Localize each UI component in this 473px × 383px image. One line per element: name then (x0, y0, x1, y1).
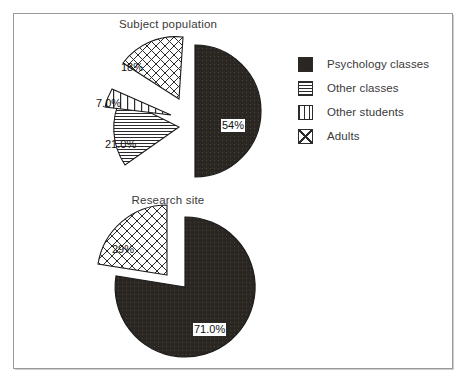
pie-label-other-classes: 21.0% (104, 138, 137, 151)
pie-label-other-students: 7.0% (95, 97, 122, 110)
legend-item-other-students[interactable]: Other students (298, 101, 429, 123)
crosshatch-swatch-icon (298, 129, 313, 144)
pie-svg-subject-population (73, 35, 293, 187)
chart-title-subject-population: Subject population (13, 18, 323, 30)
legend-subject-population: Psychology classes Other classes Other s… (298, 53, 429, 149)
pie-label-psychology-classes: 54% (221, 119, 245, 132)
legend-item-other-classes[interactable]: Other classes (298, 77, 429, 99)
legend-label-psychology-classes: Psychology classes (327, 58, 429, 70)
solid-swatch-icon (298, 57, 313, 72)
chart-subject-population: Subject population (13, 13, 453, 191)
pie-chart-research-site: 71.0% 29% (73, 205, 293, 365)
pie-chart-subject-population: 54% 21.0% 7.0% 18% (73, 35, 293, 187)
pie-svg-research-site (73, 205, 293, 365)
pie-slice-psychology-classes[interactable] (195, 45, 261, 177)
legend-item-psychology-classes[interactable]: Psychology classes (298, 53, 429, 75)
legend-label-other-classes: Other classes (327, 82, 399, 94)
legend-label-other-students: Other students (327, 106, 404, 118)
legend-label-adults: Adults (327, 130, 360, 142)
pie-label-adults: 18% (120, 61, 144, 74)
horizontal-lines-swatch-icon (298, 81, 313, 96)
figure-page: Subject population (0, 0, 473, 383)
legend-item-adults[interactable]: Adults (298, 125, 429, 147)
chart-research-site: Research site 71.0% (13, 191, 453, 369)
pie-label-natural-habitat: 29% (111, 243, 135, 256)
pie-label-laboratory: 71.0% (193, 323, 226, 336)
pie-slice-natural-habitat[interactable] (98, 205, 167, 275)
vertical-lines-swatch-icon (298, 105, 313, 120)
